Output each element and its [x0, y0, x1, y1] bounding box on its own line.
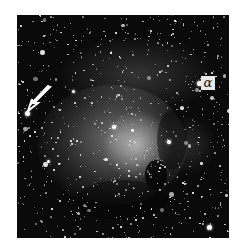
arrow-icon [24, 83, 54, 113]
dark-lane-right [157, 110, 187, 170]
nebula-glow-upper [57, 35, 217, 115]
label-alpha: α [201, 76, 215, 90]
astronomical-photograph: α [17, 15, 229, 238]
